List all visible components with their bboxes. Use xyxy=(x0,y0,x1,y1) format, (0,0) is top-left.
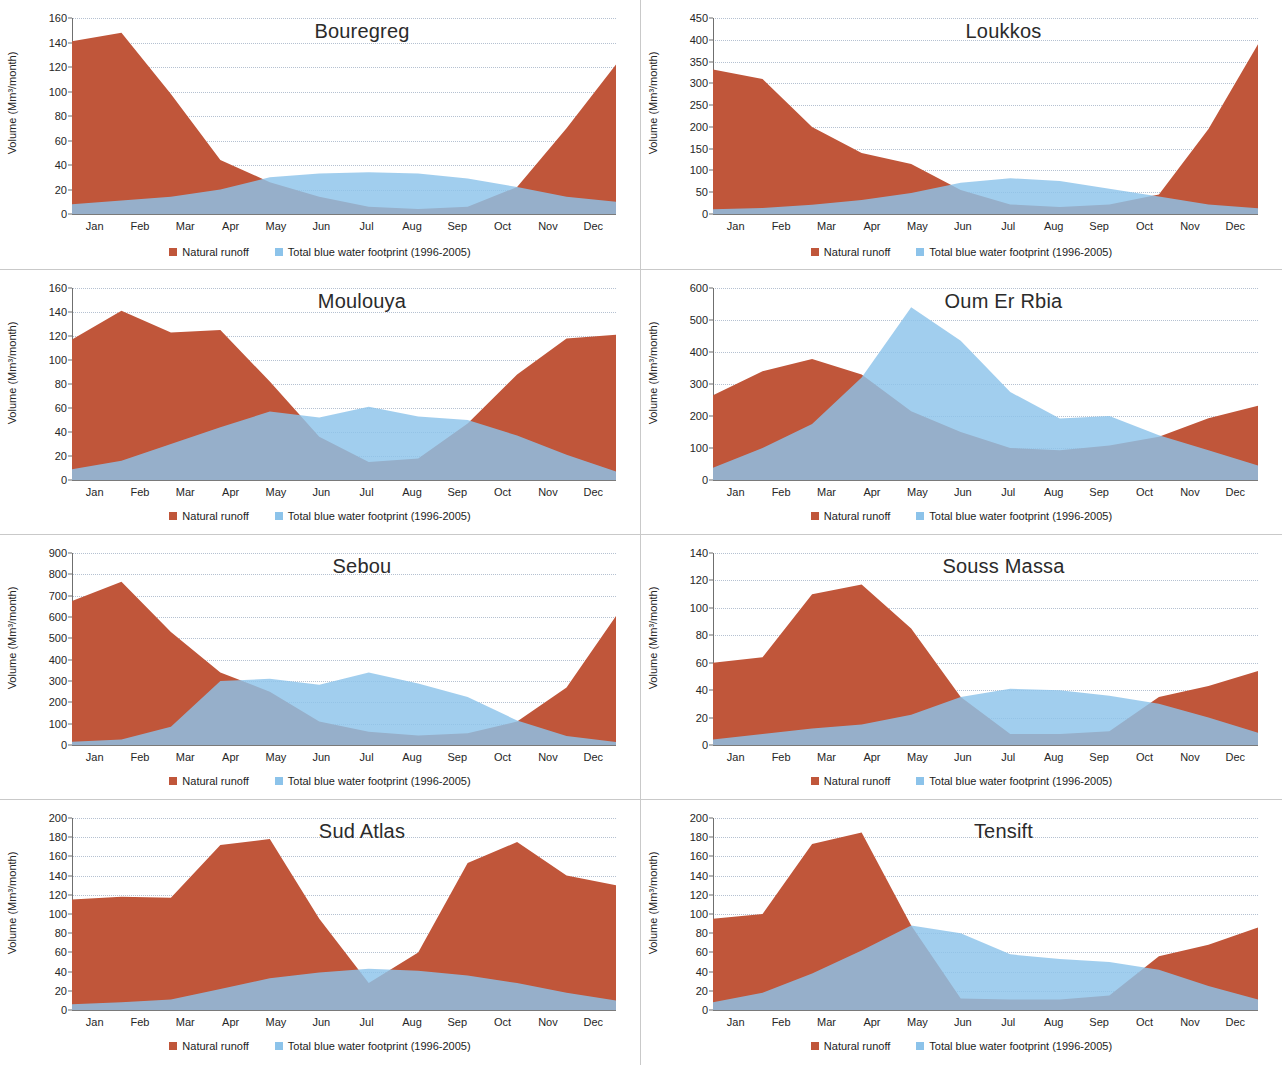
legend-item-blue[interactable]: Total blue water footprint (1996-2005) xyxy=(275,510,471,522)
legend-item-blue[interactable]: Total blue water footprint (1996-2005) xyxy=(916,246,1112,258)
chart-panel: MoulouyaVolume (Mm³/month)02040608010012… xyxy=(0,270,641,535)
y-tick-label: 350 xyxy=(690,56,708,68)
x-tick-label: May xyxy=(253,220,298,238)
legend-label: Total blue water footprint (1996-2005) xyxy=(288,510,471,522)
axis-baseline xyxy=(713,1010,1258,1011)
legend-item-runoff[interactable]: Natural runoff xyxy=(169,775,248,787)
x-axis-labels: JanFebMarAprMayJunJulAugSepOctNovDec xyxy=(713,486,1258,504)
y-tick-label: 40 xyxy=(55,159,67,171)
chart-panel: TensiftVolume (Mm³/month)020406080100120… xyxy=(641,800,1282,1065)
legend-label: Natural runoff xyxy=(824,510,890,522)
x-tick-label: Nov xyxy=(525,486,570,504)
legend-swatch-runoff-icon xyxy=(169,248,177,256)
legend-swatch-runoff-icon xyxy=(169,1042,177,1050)
y-tick-label: 160 xyxy=(49,850,67,862)
x-tick-label: Jan xyxy=(72,220,117,238)
x-tick-label: Sep xyxy=(435,1016,480,1034)
x-axis-labels: JanFebMarAprMayJunJulAugSepOctNovDec xyxy=(72,220,616,238)
y-axis-label: Volume (Mm³/month) xyxy=(647,563,663,713)
y-tick-label: 100 xyxy=(49,908,67,920)
y-axis-label: Volume (Mm³/month) xyxy=(6,828,22,978)
x-tick-label: Dec xyxy=(1213,220,1258,238)
x-tick-label: Jun xyxy=(940,751,985,769)
x-tick-label: Jun xyxy=(299,1016,344,1034)
x-tick-label: Apr xyxy=(208,486,253,504)
y-tick-label: 300 xyxy=(690,77,708,89)
legend-swatch-blue-icon xyxy=(916,777,924,785)
y-tick-label: 450 xyxy=(690,12,708,24)
plot-area: 020406080100120140160180200 xyxy=(713,818,1258,1010)
chart-panel: LoukkosVolume (Mm³/month)050100150200250… xyxy=(641,0,1282,270)
x-tick-label: Mar xyxy=(804,486,849,504)
y-tick-label: 100 xyxy=(49,86,67,98)
axis-baseline xyxy=(72,745,616,746)
chart-panel: BouregregVolume (Mm³/month)0204060801001… xyxy=(0,0,641,270)
plot-area: 0100200300400500600 xyxy=(713,288,1258,480)
x-tick-label: Mar xyxy=(163,751,208,769)
y-tick-label: 0 xyxy=(702,1004,708,1016)
x-tick-label: Dec xyxy=(571,486,616,504)
legend-label: Total blue water footprint (1996-2005) xyxy=(929,246,1112,258)
y-tick-label: 400 xyxy=(690,346,708,358)
x-tick-label: Oct xyxy=(480,751,525,769)
axis-baseline xyxy=(713,214,1258,215)
x-tick-label: Aug xyxy=(1031,751,1076,769)
y-axis-label: Volume (Mm³/month) xyxy=(6,28,22,178)
y-tick-label: 600 xyxy=(49,611,67,623)
legend-item-runoff[interactable]: Natural runoff xyxy=(811,1040,890,1052)
x-tick-label: Nov xyxy=(1167,220,1212,238)
chart-panel: Sud AtlasVolume (Mm³/month)0204060801001… xyxy=(0,800,641,1065)
x-tick-label: Jan xyxy=(713,486,758,504)
legend-item-blue[interactable]: Total blue water footprint (1996-2005) xyxy=(916,1040,1112,1052)
x-tick-label: Feb xyxy=(117,1016,162,1034)
x-tick-label: Jun xyxy=(940,1016,985,1034)
x-tick-label: Dec xyxy=(571,1016,616,1034)
x-tick-label: May xyxy=(895,220,940,238)
x-tick-label: Aug xyxy=(389,486,434,504)
legend-label: Total blue water footprint (1996-2005) xyxy=(929,510,1112,522)
legend-label: Natural runoff xyxy=(182,510,248,522)
y-tick-label: 60 xyxy=(696,657,708,669)
x-tick-label: Jul xyxy=(344,751,389,769)
legend-item-blue[interactable]: Total blue water footprint (1996-2005) xyxy=(916,775,1112,787)
x-tick-label: Sep xyxy=(1076,751,1121,769)
legend-item-runoff[interactable]: Natural runoff xyxy=(169,246,248,258)
axis-baseline xyxy=(72,214,616,215)
legend-swatch-blue-icon xyxy=(916,248,924,256)
x-axis-labels: JanFebMarAprMayJunJulAugSepOctNovDec xyxy=(713,751,1258,769)
legend-item-runoff[interactable]: Natural runoff xyxy=(811,510,890,522)
chart-legend: Natural runoffTotal blue water footprint… xyxy=(0,775,640,787)
x-tick-label: Mar xyxy=(163,1016,208,1034)
legend-item-blue[interactable]: Total blue water footprint (1996-2005) xyxy=(275,1040,471,1052)
x-tick-label: Jul xyxy=(344,220,389,238)
y-axis-label: Volume (Mm³/month) xyxy=(6,298,22,448)
legend-swatch-runoff-icon xyxy=(169,777,177,785)
legend-item-runoff[interactable]: Natural runoff xyxy=(811,775,890,787)
x-tick-label: Aug xyxy=(389,220,434,238)
legend-item-blue[interactable]: Total blue water footprint (1996-2005) xyxy=(275,246,471,258)
y-tick-label: 60 xyxy=(55,946,67,958)
y-tick-label: 40 xyxy=(55,966,67,978)
y-axis-label: Volume (Mm³/month) xyxy=(647,28,663,178)
legend-item-blue[interactable]: Total blue water footprint (1996-2005) xyxy=(275,775,471,787)
x-tick-label: Sep xyxy=(435,486,480,504)
chart-legend: Natural runoffTotal blue water footprint… xyxy=(641,775,1282,787)
y-tick-label: 200 xyxy=(49,812,67,824)
y-tick-label: 0 xyxy=(61,208,67,220)
x-tick-label: Apr xyxy=(208,220,253,238)
legend-item-runoff[interactable]: Natural runoff xyxy=(811,246,890,258)
legend-label: Natural runoff xyxy=(824,1040,890,1052)
x-tick-label: Feb xyxy=(117,486,162,504)
x-tick-label: May xyxy=(895,751,940,769)
legend-item-runoff[interactable]: Natural runoff xyxy=(169,510,248,522)
x-tick-label: Jun xyxy=(940,486,985,504)
legend-item-blue[interactable]: Total blue water footprint (1996-2005) xyxy=(916,510,1112,522)
x-tick-label: Jan xyxy=(713,751,758,769)
series-plot xyxy=(713,18,1258,214)
x-tick-label: Apr xyxy=(849,220,894,238)
legend-swatch-blue-icon xyxy=(275,777,283,785)
legend-item-runoff[interactable]: Natural runoff xyxy=(169,1040,248,1052)
legend-swatch-runoff-icon xyxy=(811,777,819,785)
y-tick-label: 40 xyxy=(55,426,67,438)
y-tick-label: 200 xyxy=(690,812,708,824)
